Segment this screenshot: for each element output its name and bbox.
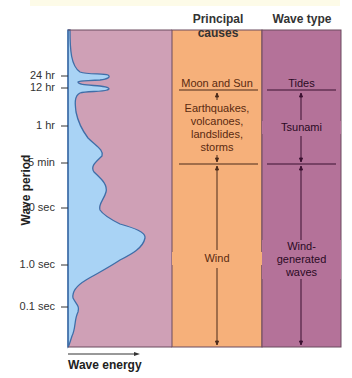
wavetype-tsunami: Tsunami bbox=[262, 121, 341, 134]
x-axis-arrow bbox=[68, 352, 140, 356]
tick-24hr: 24 hr bbox=[0, 69, 55, 81]
wavetype-line: generated bbox=[262, 253, 341, 266]
wavetype-line: waves bbox=[262, 266, 341, 279]
wave-spectrum-diagram bbox=[0, 0, 352, 378]
tick-1hr: 1 hr bbox=[0, 119, 55, 131]
cause-line: volcanoes, bbox=[172, 115, 262, 128]
tick-0-1sec: 0.1 sec bbox=[0, 300, 55, 312]
tick-1sec: 1.0 sec bbox=[0, 258, 55, 270]
y-axis-title: Wave period bbox=[19, 150, 33, 230]
cause-line: Earthquakes, bbox=[172, 102, 262, 115]
wavetype-line: Wind- bbox=[262, 240, 341, 253]
cause-earthquakes: Earthquakes, volcanoes, landslides, stor… bbox=[172, 102, 262, 154]
wavetype-tides: Tides bbox=[262, 77, 341, 90]
cause-moon-sun: Moon and Sun bbox=[172, 77, 262, 90]
cause-line: landslides, bbox=[172, 128, 262, 141]
wavetype-wind-generated: Wind- generated waves bbox=[262, 240, 341, 279]
x-axis-title: Wave energy bbox=[68, 358, 142, 372]
y-axis-ticks bbox=[61, 76, 68, 307]
tick-12hr: 12 hr bbox=[0, 81, 55, 93]
header-principal-causes: Principal causes bbox=[174, 12, 262, 40]
header-wave-type: Wave type bbox=[262, 12, 342, 26]
cause-line: storms bbox=[172, 141, 262, 154]
cause-wind: Wind bbox=[172, 252, 262, 265]
